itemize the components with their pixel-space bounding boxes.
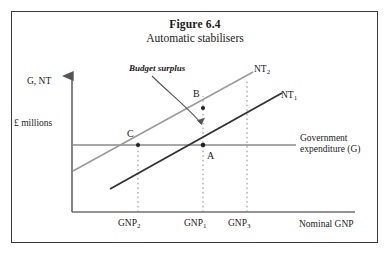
budget-surplus-label: Budget surplus (129, 63, 185, 74)
x-tick-gnp3: GNP3 (228, 218, 251, 230)
point-label-c: C (127, 128, 134, 140)
curve-label-nt1: NT1 (281, 90, 297, 102)
curve-label-nt2: NT2 (254, 64, 270, 76)
point-c-marker (136, 143, 140, 147)
gov-exp-line-2: expenditure (G) (300, 144, 360, 154)
gov-exp-line-1: Government (300, 133, 348, 143)
x-axis-label: Nominal GNP (299, 219, 354, 230)
chart-canvas (0, 0, 390, 255)
y-axis-label: G, NT (27, 76, 51, 87)
figure-page: Figure 6.4 Automatic stabilisers (0, 0, 390, 255)
point-label-a: A (207, 150, 214, 162)
government-expenditure-label: Government expenditure (G) (300, 133, 360, 155)
curve-nt1 (110, 93, 282, 189)
point-label-b: B (193, 88, 200, 100)
y-axis-units: £ millions (14, 118, 52, 129)
point-b-marker (201, 106, 205, 110)
point-a-marker (201, 143, 206, 148)
x-tick-gnp2: GNP2 (118, 218, 141, 230)
x-tick-gnp1: GNP1 (184, 218, 207, 230)
